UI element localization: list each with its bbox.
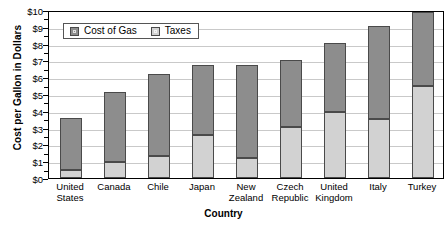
bar-segment-taxes — [104, 162, 126, 178]
bar-segment-cost-of-gas — [60, 118, 82, 171]
y-tick-mark — [43, 95, 48, 96]
x-tick-label-line: Japan — [180, 181, 224, 192]
bar-segment-cost-of-gas — [104, 92, 126, 162]
x-axis-tick-labels: UnitedStatesCanadaChileJapanNewZealandCz… — [48, 181, 444, 207]
y-tick-label: $1 — [17, 158, 43, 167]
y-tick-mark-minor — [44, 36, 48, 37]
bar-segment-cost-of-gas — [324, 43, 346, 112]
bar-segment-taxes — [60, 170, 82, 178]
bar[interactable] — [368, 26, 390, 178]
y-tick-mark-minor — [44, 53, 48, 54]
y-tick-mark-minor — [44, 137, 48, 138]
bar-segment-taxes — [148, 156, 170, 178]
x-tick-label-line: Chile — [136, 181, 180, 192]
y-tick-mark — [43, 129, 48, 130]
bar-segment-cost-of-gas — [280, 60, 302, 126]
bar[interactable] — [192, 65, 214, 178]
bar-segment-cost-of-gas — [192, 65, 214, 135]
bar[interactable] — [412, 12, 434, 178]
y-tick-label: $4 — [17, 107, 43, 116]
y-tick-mark-minor — [44, 120, 48, 121]
bar[interactable] — [60, 118, 82, 178]
y-tick-mark-minor — [44, 171, 48, 172]
bar[interactable] — [236, 65, 258, 178]
y-tick-mark — [43, 28, 48, 29]
y-tick-mark — [43, 112, 48, 113]
legend-swatch-gas-icon — [70, 27, 79, 36]
y-tick-mark — [43, 78, 48, 79]
y-tick-mark — [43, 61, 48, 62]
bar[interactable] — [324, 43, 346, 178]
x-tick-label-line: Turkey — [400, 181, 444, 192]
x-tick-label-line: Kingdom — [312, 192, 356, 203]
y-axis-tick-labels: $0$1$2$3$4$5$6$7$8$9$10 — [13, 0, 43, 226]
x-tick-label-line: Zealand — [224, 192, 268, 203]
legend-label-cost-of-gas: Cost of Gas — [84, 26, 137, 36]
y-tick-mark — [43, 11, 48, 12]
y-tick-mark — [43, 179, 48, 180]
plot-area: Cost of Gas Taxes — [48, 11, 444, 179]
bar-slot — [269, 12, 313, 178]
y-tick-label: $7 — [17, 57, 43, 66]
x-tick-label-line: New — [224, 181, 268, 192]
x-tick-label: UnitedStates — [48, 181, 92, 203]
legend-item-cost-of-gas: Cost of Gas — [70, 26, 137, 36]
y-tick-label: $8 — [17, 40, 43, 49]
stacked-bar-chart: Cost per Gallon in Dollars $0$1$2$3$4$5$… — [0, 0, 447, 226]
x-axis-title: Country — [0, 208, 447, 219]
x-tick-label: Japan — [180, 181, 224, 192]
legend-label-taxes: Taxes — [165, 26, 191, 36]
x-tick-label: CzechRepublic — [268, 181, 312, 203]
y-tick-label: $9 — [17, 23, 43, 32]
bar-segment-cost-of-gas — [368, 26, 390, 119]
y-tick-mark-minor — [44, 19, 48, 20]
x-tick-label-line: Canada — [92, 181, 136, 192]
y-tick-mark — [43, 162, 48, 163]
y-tick-mark-minor — [44, 70, 48, 71]
y-tick-mark — [43, 145, 48, 146]
bar-segment-taxes — [280, 127, 302, 178]
x-tick-label: Italy — [356, 181, 400, 192]
y-tick-mark-minor — [44, 87, 48, 88]
bar-slot — [357, 12, 401, 178]
y-tick-label: $6 — [17, 74, 43, 83]
x-tick-label: UnitedKingdom — [312, 181, 356, 203]
bar[interactable] — [280, 60, 302, 178]
bar[interactable] — [148, 74, 170, 178]
bar-segment-taxes — [368, 119, 390, 178]
bar-segment-cost-of-gas — [148, 74, 170, 156]
bar-segment-cost-of-gas — [412, 12, 434, 86]
bar-slot — [225, 12, 269, 178]
x-tick-label: Turkey — [400, 181, 444, 192]
bar-segment-taxes — [324, 112, 346, 178]
bar-segment-taxes — [412, 86, 434, 178]
x-tick-label-line: States — [48, 192, 92, 203]
x-tick-label: NewZealand — [224, 181, 268, 203]
y-tick-label: $3 — [17, 124, 43, 133]
y-tick-mark-minor — [44, 103, 48, 104]
y-tick-label: $10 — [17, 7, 43, 16]
bar[interactable] — [104, 92, 126, 178]
x-tick-label: Chile — [136, 181, 180, 192]
bar-slot — [401, 12, 445, 178]
legend-swatch-taxes-icon — [151, 27, 160, 36]
bar-segment-cost-of-gas — [236, 65, 258, 158]
legend: Cost of Gas Taxes — [63, 23, 199, 39]
y-tick-label: $0 — [17, 175, 43, 184]
x-tick-label-line: Italy — [356, 181, 400, 192]
y-tick-label: $5 — [17, 91, 43, 100]
x-tick-label-line: United — [48, 181, 92, 192]
bar-segment-taxes — [236, 158, 258, 178]
bar-segment-taxes — [192, 135, 214, 178]
x-tick-label-line: United — [312, 181, 356, 192]
y-tick-label: $2 — [17, 141, 43, 150]
legend-item-taxes: Taxes — [151, 26, 191, 36]
bar-slot — [313, 12, 357, 178]
y-tick-mark — [43, 45, 48, 46]
x-tick-label: Canada — [92, 181, 136, 192]
x-tick-label-line: Czech — [268, 181, 312, 192]
x-tick-label-line: Republic — [268, 192, 312, 203]
y-tick-mark-minor — [44, 154, 48, 155]
